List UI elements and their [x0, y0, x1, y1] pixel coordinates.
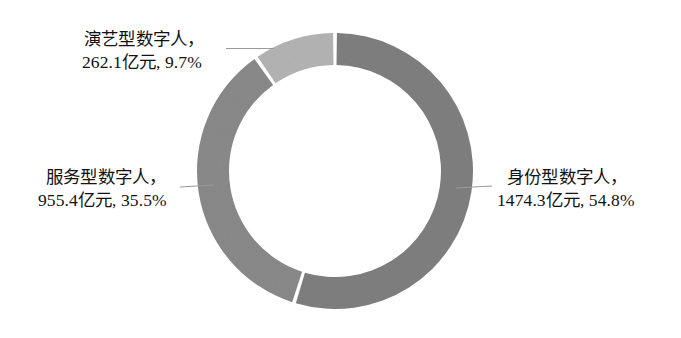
slice-label-service-value: 955.4亿元, 35.5%	[38, 189, 167, 212]
slice-label-identity: 身份型数字人， 1474.3亿元, 54.8%	[497, 166, 635, 212]
slice-label-identity-value: 1474.3亿元, 54.8%	[497, 189, 635, 212]
slice-label-service: 服务型数字人， 955.4亿元, 35.5%	[38, 166, 167, 212]
donut-slice-performance	[258, 33, 334, 83]
slice-label-performance: 演艺型数字人， 262.1亿元, 9.7%	[82, 28, 204, 74]
slice-label-service-name: 服务型数字人，	[38, 166, 167, 189]
donut-slice-service	[197, 59, 302, 302]
slice-label-identity-name: 身份型数字人，	[497, 166, 635, 189]
slice-label-performance-value: 262.1亿元, 9.7%	[82, 51, 204, 74]
donut-slice-identity	[296, 33, 473, 309]
donut-chart-figure: 演艺型数字人， 262.1亿元, 9.7% 服务型数字人， 955.4亿元, 3…	[0, 0, 681, 338]
slice-label-performance-name: 演艺型数字人，	[82, 28, 204, 51]
